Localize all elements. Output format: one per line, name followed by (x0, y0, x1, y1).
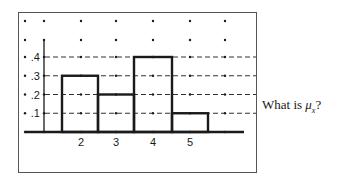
x-tick-label: 4 (150, 136, 156, 148)
grid-dot (24, 20, 26, 22)
grid-dot (115, 56, 117, 58)
x-tick-label: 5 (187, 136, 193, 148)
bar-3 (98, 95, 134, 133)
grid-dot (43, 20, 45, 22)
grid-dot (24, 39, 26, 41)
grid-dot (115, 39, 117, 41)
question-prefix: What is (262, 97, 305, 112)
question-suffix: ? (315, 97, 321, 112)
y-tick-label: .3 (31, 70, 40, 82)
y-tick-label: .1 (31, 107, 40, 119)
grid-dot (24, 93, 26, 95)
y-tick-label: .4 (31, 51, 40, 63)
grid-dot (80, 20, 82, 22)
bar-2 (62, 76, 98, 132)
bar-4 (134, 57, 172, 132)
grid-dot (224, 39, 226, 41)
grid-dot (24, 56, 26, 58)
grid-dot (24, 112, 26, 114)
grid-dot (152, 39, 154, 41)
grid-dot (115, 20, 117, 22)
grid-dot (189, 39, 191, 41)
x-tick-label: 2 (78, 136, 84, 148)
grid-dot (189, 20, 191, 22)
grid-dot (224, 20, 226, 22)
y-tick-labels: .1.2.3.4 (31, 51, 40, 119)
bars (62, 57, 208, 132)
grid-dot (80, 39, 82, 41)
grid-dot (24, 75, 26, 77)
x-tick-label: 3 (113, 136, 119, 148)
question-text: What is μx? (262, 97, 321, 115)
grid-dot (115, 75, 117, 77)
y-tick-label: .2 (31, 89, 40, 101)
bar-5 (172, 113, 208, 132)
x-tick-labels: 2345 (78, 136, 193, 148)
grid-dot (152, 20, 154, 22)
probability-histogram: .1.2.3.4 2345 (0, 0, 341, 182)
